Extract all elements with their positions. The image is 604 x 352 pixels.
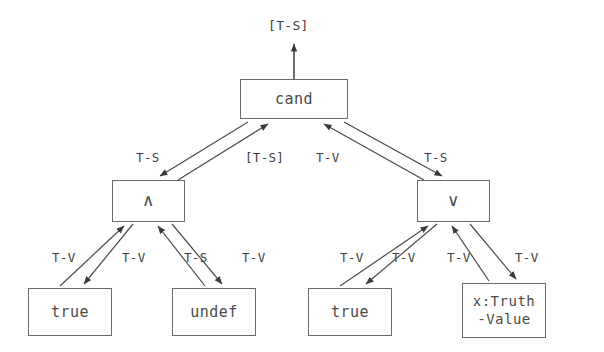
node-leaf-undef-label: undef: [190, 303, 238, 322]
edge-label-cand-and-down: T-S: [136, 150, 159, 165]
node-cand-label: cand: [275, 90, 313, 109]
node-leaf-true-1[interactable]: true: [28, 288, 112, 336]
node-leaf-true-2-label: true: [331, 303, 369, 322]
edge-label-leaf4-or-up: T-V: [447, 250, 470, 265]
root-output-label: [T-S]: [268, 18, 309, 33]
edge-label-and-leaf1-down: T-V: [122, 250, 145, 265]
node-leaf-truthvalue[interactable]: x:Truth -Value: [462, 283, 546, 338]
node-or[interactable]: ∨: [417, 180, 490, 222]
node-or-label: ∨: [447, 190, 460, 211]
edge-label-and-leaf2-down: T-V: [242, 250, 265, 265]
node-and-label: ∧: [142, 190, 155, 211]
edge-label-or-cand-up: T-V: [316, 150, 339, 165]
node-cand[interactable]: cand: [240, 79, 348, 119]
edge-label-leaf2-and-up: T-S: [184, 250, 207, 265]
edge-label-leaf3-or-up: T-V: [340, 250, 363, 265]
edge-cand-or-down: [344, 122, 442, 176]
node-and[interactable]: ∧: [112, 180, 185, 222]
node-leaf-truthvalue-line1: x:Truth: [473, 293, 536, 311]
edge-label-cand-or-down: T-S: [424, 150, 447, 165]
edge-label-or-leaf3-down: T-V: [392, 250, 415, 265]
node-leaf-truthvalue-line2: -Value: [477, 311, 531, 329]
edge-label-leaf1-and-up: T-V: [52, 250, 75, 265]
node-leaf-undef[interactable]: undef: [172, 288, 256, 336]
edge-label-or-leaf4-down: T-V: [515, 250, 538, 265]
edge-label-and-cand-up: [T-S]: [245, 150, 284, 165]
node-leaf-true-1-label: true: [51, 303, 89, 322]
edge-or-leaf4-down: [470, 224, 516, 279]
edge-cand-and-down: [160, 122, 248, 176]
node-leaf-true-2[interactable]: true: [308, 288, 392, 336]
